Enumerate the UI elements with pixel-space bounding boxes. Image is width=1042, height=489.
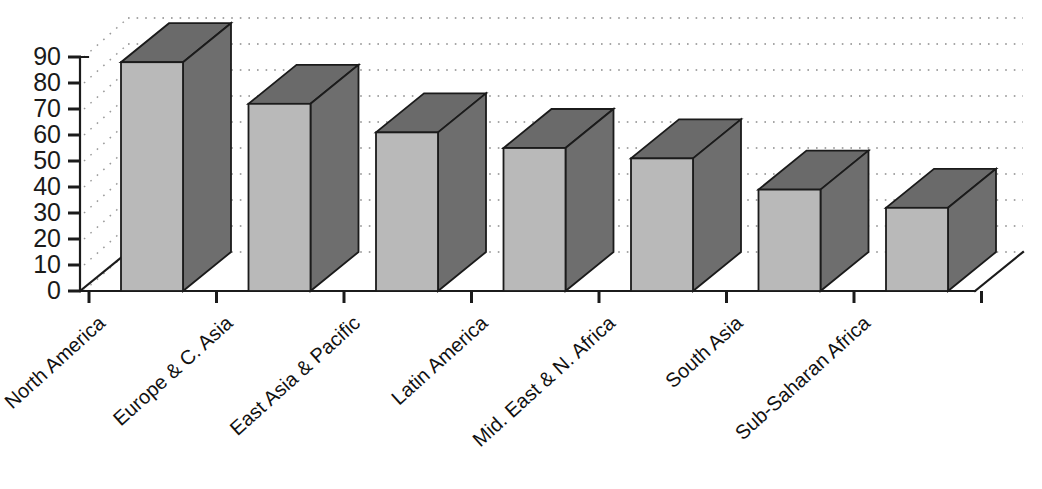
bar-front-face: [249, 104, 311, 291]
bar-chart-3d: 9080706050403020100 North AmericaEurope …: [0, 0, 1042, 489]
bar-front-face: [886, 208, 948, 291]
y-tick-label: 10: [33, 250, 61, 278]
bar-6: [886, 169, 996, 291]
bar-4: [631, 119, 741, 291]
bar-1: [249, 65, 359, 291]
bar-3: [504, 109, 614, 291]
bar-front-face: [121, 62, 183, 291]
y-tick-label: 60: [33, 120, 61, 148]
y-axis-line: [80, 57, 88, 291]
y-tick-label: 70: [33, 94, 61, 122]
bar-0: [121, 23, 231, 291]
y-axis: [68, 57, 88, 291]
bar-front-face: [759, 190, 821, 291]
bar-side-face: [183, 23, 231, 291]
y-tick-label: 0: [47, 276, 61, 304]
chart-container: 9080706050403020100 North AmericaEurope …: [0, 0, 1042, 489]
y-tick-label: 20: [33, 224, 61, 252]
bar-front-face: [631, 158, 693, 291]
x-category-label: East Asia & Pacific: [226, 312, 365, 440]
y-tick-label: 90: [33, 42, 61, 70]
y-tick-label: 40: [33, 172, 61, 200]
x-category-label: Sub-Saharan Africa: [731, 311, 875, 444]
bar-2: [376, 93, 486, 291]
bar-side-face: [311, 65, 359, 291]
bar-5: [759, 151, 869, 291]
x-category-label: Mid. East & N. Africa: [468, 311, 620, 451]
x-category-label: Latin America: [387, 311, 492, 409]
x-axis-category-labels: North AmericaEurope & C. AsiaEast Asia &…: [0, 311, 875, 451]
y-tick-label: 80: [33, 68, 61, 96]
y-tick-label: 30: [33, 198, 61, 226]
x-category-label: South Asia: [661, 311, 747, 392]
y-axis-tick-labels: 9080706050403020100: [33, 42, 61, 304]
depth-gridline: [84, 18, 128, 57]
x-category-label: Europe & C. Asia: [109, 311, 238, 430]
x-category-label: North America: [0, 311, 110, 413]
bars-group: [121, 23, 996, 291]
bar-front-face: [504, 148, 566, 291]
bar-front-face: [376, 132, 438, 291]
y-tick-label: 50: [33, 146, 61, 174]
